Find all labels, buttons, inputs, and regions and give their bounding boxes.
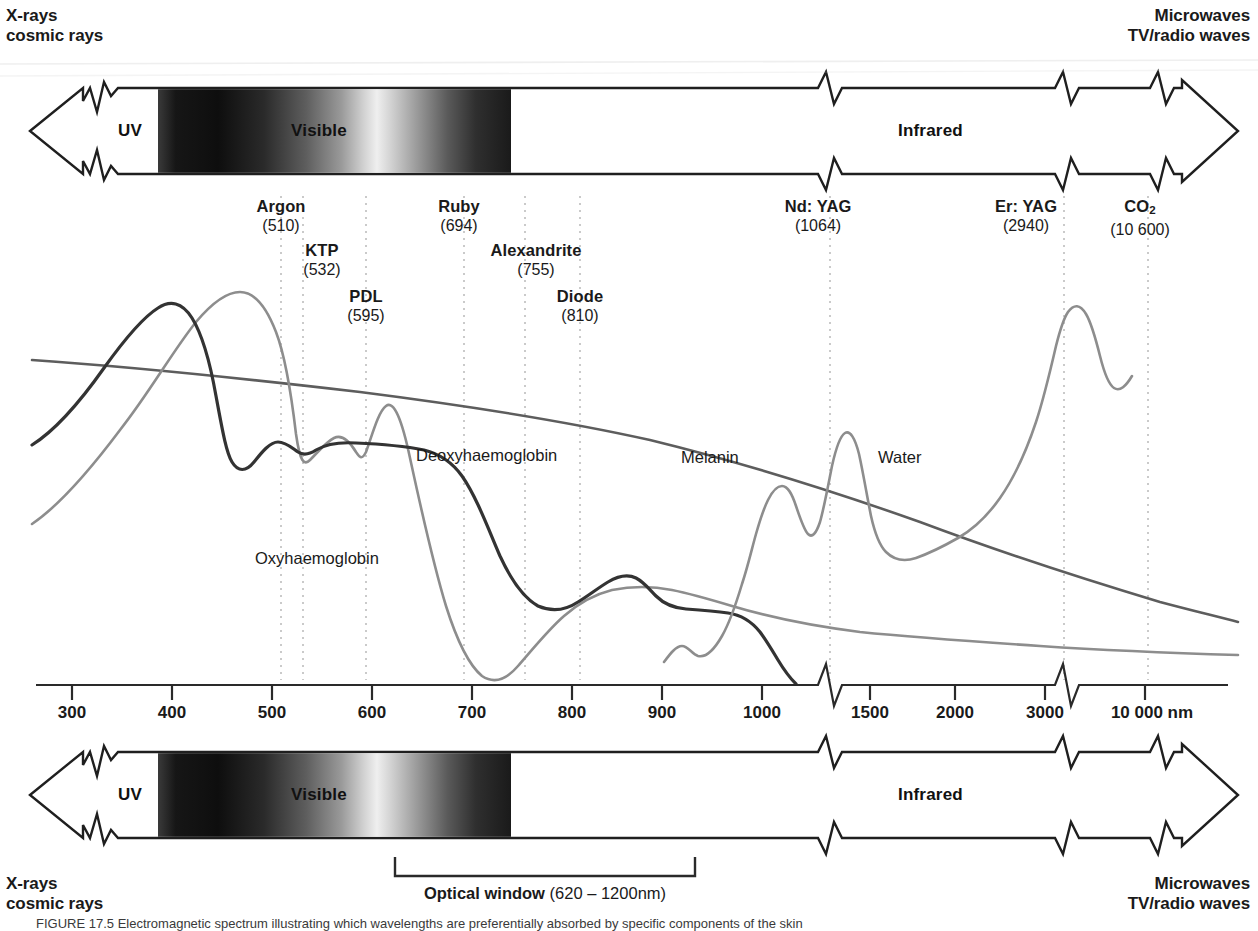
optical-window-range: (620 – 1200nm) xyxy=(550,884,667,902)
axis-tick-400: 400 xyxy=(158,703,186,723)
laser-wavelength-pdl: (595) xyxy=(347,306,384,325)
top-spectrum-arrow xyxy=(30,72,1238,190)
laser-name-pdl: PDL xyxy=(347,287,384,306)
laser-name-co2: CO2 xyxy=(1110,197,1170,220)
curve-label-oxyhaemoglobin: Oxyhaemoglobin xyxy=(255,549,379,568)
laser-name-co2-subscript: 2 xyxy=(1149,204,1156,216)
laser-label-ruby: Ruby (694) xyxy=(438,197,480,235)
optical-window-label: Optical window (620 – 1200nm) xyxy=(424,884,666,903)
laser-label-argon: Argon (510) xyxy=(256,197,305,235)
laser-label-co2: CO2 (10 600) xyxy=(1110,197,1170,239)
laser-guide-lines xyxy=(281,196,1148,680)
curve-deoxyhaemoglobin xyxy=(32,303,796,684)
corner-label-top-left: X-rays cosmic rays xyxy=(6,6,103,46)
curve-label-water: Water xyxy=(878,448,921,467)
laser-label-er-yag: Er: YAG (2940) xyxy=(995,197,1057,235)
curve-label-melanin: Melanin xyxy=(681,448,739,467)
axis-tick-1500: 1500 xyxy=(851,703,889,723)
laser-name-er-yag: Er: YAG xyxy=(995,197,1057,216)
curve-oxyhaemoglobin xyxy=(32,292,1238,680)
laser-wavelength-ktp: (532) xyxy=(303,260,340,279)
laser-wavelength-alexandrite: (755) xyxy=(491,260,582,279)
axis-tick-2000: 2000 xyxy=(936,703,974,723)
laser-name-diode: Diode xyxy=(557,287,603,306)
optical-window-title: Optical window xyxy=(424,884,545,902)
visible-band-top xyxy=(158,89,511,173)
laser-label-diode: Diode (810) xyxy=(557,287,603,325)
laser-name-argon: Argon xyxy=(256,197,305,216)
laser-name-ruby: Ruby xyxy=(438,197,480,216)
axis-tick-500: 500 xyxy=(258,703,286,723)
laser-wavelength-argon: (510) xyxy=(256,216,305,235)
axis-tick-3000: 3000 xyxy=(1026,703,1064,723)
bottom-spectrum-arrow xyxy=(30,736,1238,854)
optical-window-bracket xyxy=(395,857,695,876)
laser-name-nd-yag: Nd: YAG xyxy=(785,197,852,216)
axis-tick-600: 600 xyxy=(358,703,386,723)
laser-wavelength-er-yag: (2940) xyxy=(995,216,1057,235)
curve-water xyxy=(664,306,1132,662)
laser-label-nd-yag: Nd: YAG (1064) xyxy=(785,197,852,235)
corner-label-bottom-right: Microwaves TV/radio waves xyxy=(1128,874,1250,914)
laser-wavelength-nd-yag: (1064) xyxy=(785,216,852,235)
corner-label-bottom-left: X-rays cosmic rays xyxy=(6,874,103,914)
axis-tick-900: 900 xyxy=(648,703,676,723)
axis-tick-1000: 1000 xyxy=(743,703,781,723)
laser-label-pdl: PDL (595) xyxy=(347,287,384,325)
laser-wavelength-co2: (10 600) xyxy=(1110,220,1170,239)
axis-tick-300: 300 xyxy=(58,703,86,723)
axis-tick-800: 800 xyxy=(558,703,586,723)
laser-label-ktp: KTP (532) xyxy=(303,241,340,279)
laser-label-alexandrite: Alexandrite (755) xyxy=(491,241,582,279)
scan-artifact-lines xyxy=(0,60,1258,76)
curve-label-deoxyhaemoglobin: Deoxyhaemoglobin xyxy=(416,446,557,465)
axis-tick-10000-nm: 10 000 nm xyxy=(1111,703,1193,723)
laser-name-alexandrite: Alexandrite xyxy=(491,241,582,260)
visible-band-bottom xyxy=(158,753,511,837)
figure-caption: FIGURE 17.5 Electromagnetic spectrum ill… xyxy=(36,916,1236,931)
laser-name-ktp: KTP xyxy=(303,241,340,260)
wavelength-axis xyxy=(36,664,1228,706)
corner-label-top-right: Microwaves TV/radio waves xyxy=(1128,6,1250,46)
curve-melanin xyxy=(32,360,1238,622)
absorption-curves xyxy=(32,292,1238,684)
axis-tick-700: 700 xyxy=(458,703,486,723)
laser-wavelength-diode: (810) xyxy=(557,306,603,325)
laser-wavelength-ruby: (694) xyxy=(438,216,480,235)
laser-name-co2-text: CO xyxy=(1124,197,1149,215)
